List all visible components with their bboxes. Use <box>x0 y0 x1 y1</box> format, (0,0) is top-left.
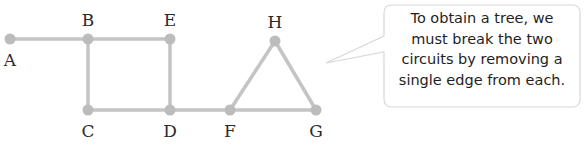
graph-labels: ABEHCDFG <box>3 10 323 141</box>
node-C <box>83 105 94 116</box>
node-H <box>270 36 281 47</box>
node-label-B: B <box>82 10 95 30</box>
node-B <box>83 34 94 45</box>
edge-HG <box>275 41 316 110</box>
graph-edges <box>10 39 316 110</box>
graph-nodes <box>5 34 322 116</box>
node-label-C: C <box>81 121 94 141</box>
callout-line: To obtain a tree, we <box>386 8 578 29</box>
node-label-H: H <box>268 12 283 32</box>
node-D <box>165 105 176 116</box>
node-label-E: E <box>164 10 176 30</box>
node-label-G: G <box>309 121 323 141</box>
callout-line: must break the two <box>386 29 578 50</box>
node-label-D: D <box>163 121 177 141</box>
callout-line: single edge from each. <box>386 70 578 91</box>
node-G <box>311 105 322 116</box>
callout-line: circuits by removing a <box>386 49 578 70</box>
node-label-A: A <box>3 50 17 70</box>
edge-FH <box>230 41 275 110</box>
node-F <box>225 105 236 116</box>
callout-text: To obtain a tree, we must break the two … <box>386 8 578 90</box>
node-label-F: F <box>224 121 236 141</box>
node-E <box>165 34 176 45</box>
node-A <box>5 34 16 45</box>
